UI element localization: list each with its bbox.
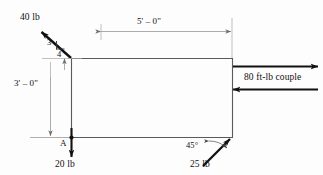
dimension-vertical-label: 3' – 0" [14,79,38,88]
force-25lb-label: 25 lb [190,160,210,170]
dimension-vertical-group [42,59,82,137]
couple-80ftlb-label: 80 ft-lb couple [244,73,301,83]
force-20lb-label: 20 lb [55,160,75,170]
force-40lb-label: 40 lb [20,13,40,23]
dimension-horizontal-label: 5' – 0" [137,17,161,26]
slope-run-label: 4 [57,50,61,59]
angle-45-label: 45° [186,141,198,150]
force-20lb-vector [69,128,73,157]
slope-rise-label: 3 [47,38,51,47]
point-a-label: A [60,139,67,148]
statics-diagram: 40 lb 3 4 5' – 0" 3' – 0" 80 ft-lb coupl… [0,0,323,175]
frame-members [30,58,233,138]
dimension-horizontal-group [101,18,232,58]
joint-a-dot [69,135,73,139]
diagram-canvas [0,0,323,175]
